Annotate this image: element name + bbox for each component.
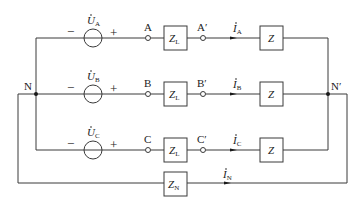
plus-sign-a: + <box>110 25 117 40</box>
terminal-b <box>146 92 151 97</box>
load-impedance-a-label: Z <box>268 32 275 44</box>
node-n-prime <box>326 92 330 96</box>
terminal-c-prime-label: C′ <box>197 133 207 145</box>
current-a-label: IA <box>232 22 242 36</box>
current-arrow-b-icon <box>230 93 237 96</box>
terminal-c-prime <box>201 148 206 153</box>
terminal-a-label: A <box>144 21 152 33</box>
node-n <box>34 92 38 96</box>
plus-sign-c: + <box>110 137 117 152</box>
minus-sign-a: − <box>67 24 74 39</box>
node-n-label: N <box>24 80 32 92</box>
three-phase-circuit-diagram: UA UB UC − + − + − + A A′ B B′ C C′ ZL Z… <box>0 0 360 209</box>
load-impedance-b-label: Z <box>268 88 275 100</box>
terminal-a-prime-label: A′ <box>197 21 207 33</box>
terminal-b-prime-label: B′ <box>197 77 207 89</box>
minus-sign-b: − <box>67 80 74 95</box>
current-arrow-c-icon <box>230 149 237 152</box>
terminal-c <box>146 148 151 153</box>
load-impedance-c-label: Z <box>268 144 275 156</box>
terminal-b-label: B <box>144 77 151 89</box>
source-b-label: UB <box>87 70 100 84</box>
node-n-prime-label: N′ <box>331 80 341 92</box>
source-c-label: UC <box>87 126 100 140</box>
source-a-label: UA <box>87 14 100 28</box>
voltage-source-c-icon <box>84 141 102 159</box>
terminal-b-prime <box>201 92 206 97</box>
terminal-c-label: C <box>144 133 151 145</box>
current-arrow-a-icon <box>230 37 237 40</box>
plus-sign-b: + <box>110 81 117 96</box>
current-c-label: IC <box>232 134 242 148</box>
voltage-source-b-icon <box>84 85 102 103</box>
current-n-label: IN <box>222 168 232 182</box>
terminal-a-prime <box>201 36 206 41</box>
terminal-a <box>146 36 151 41</box>
current-b-label: IB <box>232 78 242 92</box>
minus-sign-c: − <box>67 136 74 151</box>
voltage-source-a-icon <box>84 29 102 47</box>
